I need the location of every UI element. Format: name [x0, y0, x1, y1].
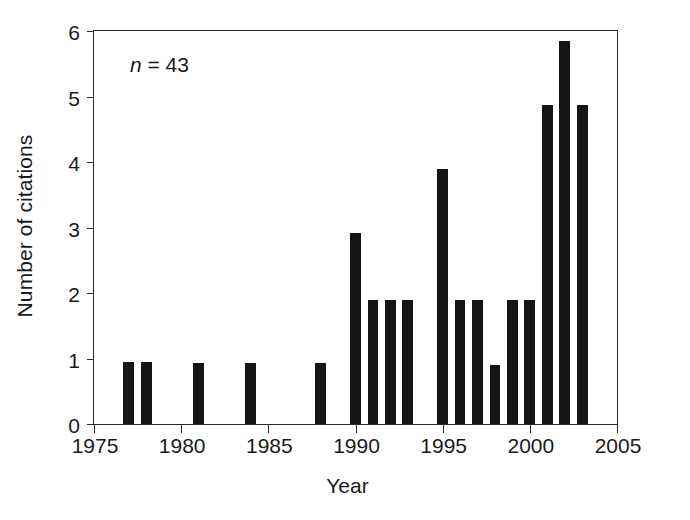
citations-bar-chart: Number of citations 0123456 197519801985…	[0, 0, 690, 520]
bar	[437, 169, 448, 424]
sample-size-value: = 43	[142, 53, 189, 76]
sample-size-symbol: n	[130, 53, 142, 76]
y-tick: 4	[87, 162, 94, 163]
x-tick-label: 2005	[595, 435, 642, 456]
bar	[350, 233, 361, 424]
bar	[472, 300, 483, 424]
x-tick-label: 1980	[159, 435, 206, 456]
plot-area: 0123456 1975198019851990199520002005 n =…	[93, 30, 618, 425]
y-tick: 3	[87, 228, 94, 229]
bar	[385, 300, 396, 424]
x-tick: 2000	[530, 424, 531, 433]
bar	[577, 105, 588, 424]
bar	[123, 362, 134, 424]
y-tick: 2	[87, 293, 94, 294]
bar	[245, 363, 256, 424]
sample-size-annotation: n = 43	[130, 53, 189, 77]
bar	[141, 362, 152, 424]
y-tick: 6	[87, 31, 94, 32]
y-tick-label: 3	[68, 218, 80, 239]
bar	[193, 363, 204, 424]
bar	[524, 300, 535, 424]
bar	[507, 300, 518, 424]
bar	[490, 365, 501, 424]
y-tick-label: 5	[68, 87, 80, 108]
bar	[559, 41, 570, 424]
x-tick-label: 1995	[420, 435, 467, 456]
x-axis-title: Year	[75, 474, 620, 498]
y-tick-label: 4	[68, 153, 80, 174]
bar	[402, 300, 413, 424]
bar	[455, 300, 466, 424]
y-tick: 5	[87, 97, 94, 98]
bar	[542, 105, 553, 424]
y-tick: 1	[87, 359, 94, 360]
y-tick-label: 6	[68, 22, 80, 43]
y-tick: 0	[87, 424, 94, 425]
x-tick: 2005	[617, 424, 618, 433]
x-tick-label: 1985	[246, 435, 293, 456]
x-tick-label: 2000	[507, 435, 554, 456]
x-tick-label: 1990	[333, 435, 380, 456]
x-tick: 1980	[181, 424, 182, 433]
y-tick-label: 0	[68, 415, 80, 436]
bar-series	[94, 31, 617, 424]
y-tick-label: 2	[68, 284, 80, 305]
x-tick: 1995	[443, 424, 444, 433]
y-tick-label: 1	[68, 349, 80, 370]
bar	[315, 363, 326, 424]
bar	[368, 300, 379, 424]
y-axis-title: Number of citations	[8, 16, 42, 436]
x-tick: 1985	[268, 424, 269, 433]
x-tick: 1990	[356, 424, 357, 433]
x-tick: 1975	[94, 424, 95, 433]
x-tick-label: 1975	[72, 435, 119, 456]
